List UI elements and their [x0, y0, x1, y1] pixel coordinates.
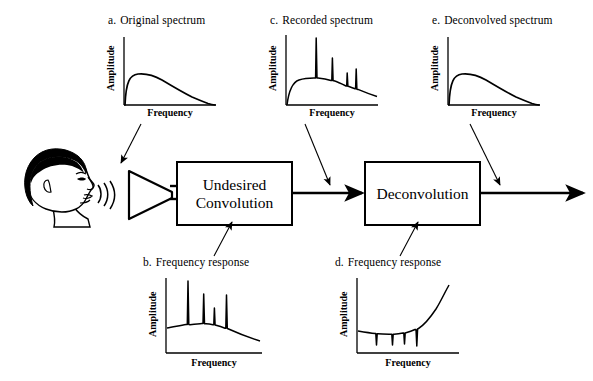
- panel-d-caption: Frequency response: [348, 256, 441, 268]
- panel-d-title: d.Frequency response: [335, 256, 441, 268]
- panel-e-curve: [449, 74, 539, 105]
- panel-e-chart: Amplitude Frequency: [424, 33, 544, 118]
- panel-b-ylabel: Amplitude: [147, 291, 158, 337]
- panel-b-letter: b.: [143, 256, 152, 268]
- deconvolution-line1: Deconvolution: [376, 185, 468, 202]
- panel-c-xlabel: Frequency: [309, 107, 354, 118]
- panel-e-caption: Deconvolved spectrum: [444, 14, 552, 26]
- panel-e-title: e.Deconvolved spectrum: [432, 14, 553, 26]
- panel-e-xlabel: Frequency: [471, 107, 516, 118]
- panel-d-ylabel: Amplitude: [338, 291, 349, 337]
- panel-d-letter: d.: [335, 256, 344, 268]
- panel-c-curve: [287, 38, 377, 105]
- microphone-horn: [126, 168, 176, 222]
- panel-c-title: c.Recorded spectrum: [270, 14, 373, 26]
- panel-a-letter: a.: [108, 14, 116, 26]
- figure-canvas: a.Original spectrum Amplitude Frequency …: [0, 0, 593, 381]
- panel-b-chart: Amplitude Frequency: [142, 275, 267, 370]
- panel-a-chart: Amplitude Frequency: [100, 33, 220, 118]
- panel-e-ylabel: Amplitude: [429, 45, 440, 91]
- arrow-panel-b-to-convolution: [214, 222, 232, 256]
- panel-a-curve: [125, 74, 215, 105]
- undesired-convolution-label: Undesired Convolution: [196, 176, 274, 211]
- panel-c-chart: Amplitude Frequency: [262, 33, 382, 118]
- panel-b-title: b.Frequency response: [143, 256, 249, 268]
- deconvolution-block[interactable]: Deconvolution: [364, 161, 481, 226]
- panel-b-xlabel: Frequency: [191, 357, 236, 368]
- deconvolution-label: Deconvolution: [376, 185, 468, 202]
- undesired-convolution-block[interactable]: Undesired Convolution: [176, 161, 293, 226]
- panel-c-caption: Recorded spectrum: [282, 14, 373, 26]
- undesired-convolution-line2: Convolution: [196, 194, 274, 211]
- panel-a-caption: Original spectrum: [120, 14, 205, 26]
- arrow-panel-c-to-signal: [305, 124, 330, 185]
- panel-a-ylabel: Amplitude: [105, 45, 116, 91]
- panel-b-curve: [167, 281, 260, 341]
- arrow-panel-d-to-deconvolution: [400, 222, 418, 256]
- speaker-head-illustration: [14, 133, 134, 233]
- panel-d-xlabel: Frequency: [385, 357, 430, 368]
- panel-c-letter: c.: [270, 14, 278, 26]
- panel-a-xlabel: Frequency: [147, 107, 192, 118]
- panel-d-curve: [358, 285, 449, 346]
- sound-wave-3: [110, 181, 115, 209]
- undesired-convolution-line1: Undesired: [203, 176, 267, 193]
- sound-wave-1: [98, 185, 101, 203]
- panel-b-caption: Frequency response: [156, 256, 249, 268]
- horn-shape: [129, 171, 172, 219]
- panel-c-ylabel: Amplitude: [267, 45, 278, 91]
- panel-e-letter: e.: [432, 14, 440, 26]
- panel-a-title: a.Original spectrum: [108, 14, 205, 26]
- sound-wave-2: [104, 183, 108, 206]
- panel-d-chart: Amplitude Frequency: [333, 275, 463, 370]
